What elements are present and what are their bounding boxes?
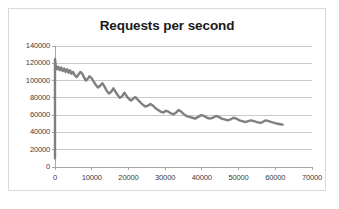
x-axis-tick-label: 20000 [108,173,148,182]
data-series-line [55,59,283,158]
y-axis-tick-label: 0 [6,162,50,171]
axes-group [55,46,312,167]
x-axis-tick-label: 70000 [292,173,332,182]
x-axis-tick-label: 10000 [72,173,112,182]
y-axis-tick-label: 40000 [6,127,50,136]
x-axis-tick-label: 30000 [145,173,185,182]
x-axis-tick-label: 60000 [255,173,295,182]
chart-container: Requests per second 02000040000600008000… [8,8,326,191]
y-axis-tick-label: 100000 [6,76,50,85]
y-axis-tick-label: 60000 [6,110,50,119]
y-axis-tick-label: 120000 [6,58,50,67]
chart-plot-area [9,9,327,192]
x-axis-tick-label: 50000 [219,173,259,182]
x-axis-tick-label: 0 [35,173,75,182]
x-axis-tick-label: 40000 [182,173,222,182]
y-axis-tick-label: 140000 [6,41,50,50]
gridlines-group [55,46,312,150]
y-axis-tick-label: 20000 [6,145,50,154]
y-axis-tick-label: 80000 [6,93,50,102]
